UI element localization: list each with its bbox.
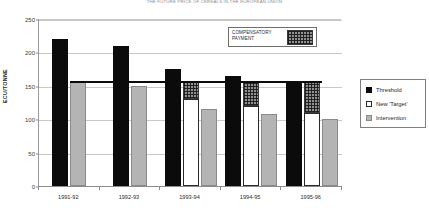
y-axis-tick-label: 150	[25, 84, 35, 90]
x-axis-line	[38, 186, 342, 187]
x-axis-tick-label: 1993-94	[179, 194, 200, 201]
bar-intervention	[131, 86, 147, 186]
bar-intervention	[261, 114, 277, 186]
x-axis-tick	[159, 186, 160, 190]
chart-legend: ThresholdNew 'Target'Intervention	[360, 79, 426, 128]
y-axis-tick	[36, 20, 39, 21]
gridline	[39, 20, 342, 21]
bar-threshold	[52, 39, 68, 186]
bar-intervention	[201, 109, 217, 186]
bar-compensatory-payment	[304, 82, 320, 112]
legend-swatch-target	[366, 101, 372, 107]
y-axis-tick-label: 250	[25, 17, 35, 23]
y-axis-tick	[36, 120, 39, 121]
bar-threshold	[113, 46, 129, 186]
cereal-price-chart: THE FUTURE PRICE OF CEREALS IN THE EUROP…	[0, 0, 429, 208]
bar-compensatory-payment	[243, 82, 259, 105]
y-axis-tick	[36, 53, 39, 54]
bar-compensatory-payment	[183, 82, 199, 99]
legend-label: Threshold	[376, 87, 402, 94]
bar-intervention	[70, 82, 86, 186]
y-axis-tick	[36, 86, 39, 87]
x-axis-tick-label: 1994-95	[240, 194, 261, 201]
compensatory-payment-label: COMPENSATORY PAYMENT	[232, 30, 290, 42]
compensatory-payment-line2: PAYMENT	[232, 36, 254, 41]
y-axis-tick-label: 100	[25, 117, 35, 123]
x-axis-tick-label: 1992-93	[119, 194, 140, 201]
x-axis-tick-label: 1991-92	[58, 194, 79, 201]
compensatory-payment-line1: COMPENSATORY	[232, 30, 272, 35]
gridline	[39, 53, 342, 54]
y-axis-tick-label: 200	[25, 50, 35, 56]
legend-swatch-intervention	[366, 115, 372, 121]
y-axis-tick	[36, 153, 39, 154]
legend-label: New 'Target'	[376, 101, 408, 108]
compensatory-payment-swatch	[287, 30, 313, 45]
x-axis-tick	[38, 186, 39, 190]
y-axis-tick-label: 0	[32, 184, 35, 190]
y-axis-tick-label: 50	[28, 151, 35, 157]
legend-label: Intervention	[376, 115, 406, 122]
legend-item-threshold: Threshold	[366, 85, 402, 95]
chart-title: THE FUTURE PRICE OF CEREALS IN THE EUROP…	[0, 0, 429, 4]
x-axis-tick	[341, 186, 342, 190]
bar-threshold	[165, 69, 181, 186]
y-axis-title: ECU/TONNE	[2, 69, 8, 103]
bar-target	[304, 113, 320, 186]
bar-intervention	[322, 119, 338, 186]
legend-item-intervention: Intervention	[366, 113, 406, 123]
x-axis-tick	[280, 186, 281, 190]
compensatory-payment-callout: COMPENSATORY PAYMENT	[228, 27, 317, 47]
bar-threshold	[225, 76, 241, 186]
x-axis-tick	[99, 186, 100, 190]
bar-threshold	[286, 82, 302, 186]
bar-target	[183, 99, 199, 186]
legend-item-target: New 'Target'	[366, 99, 408, 109]
x-axis-tick	[220, 186, 221, 190]
target-price-reference-line	[70, 81, 322, 83]
legend-swatch-threshold	[366, 87, 372, 93]
bar-target	[243, 106, 259, 186]
x-axis-tick-label: 1995-96	[300, 194, 321, 201]
